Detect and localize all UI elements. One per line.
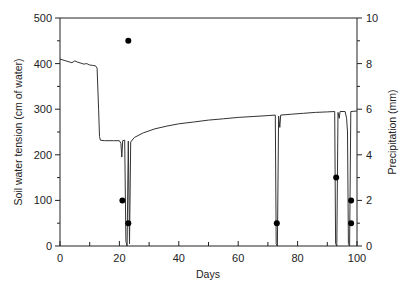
x-ticks: 020406080100 [57, 241, 366, 264]
y2-tick-label: 2 [366, 194, 372, 206]
y2-tick-label: 10 [366, 12, 378, 24]
x-axis-title: Days [196, 268, 220, 280]
y-tick-label: 100 [34, 194, 52, 206]
precipitation-point [274, 220, 280, 226]
x-tick-label: 40 [173, 252, 185, 264]
y-tick-label: 200 [34, 149, 52, 161]
precipitation-point [125, 38, 131, 44]
soil-tension-line [60, 59, 357, 246]
y-ticks: 0100200300400500 [34, 12, 60, 252]
y2-tick-label: 4 [366, 149, 372, 161]
precipitation-point [348, 197, 354, 203]
y2-ticks: 0246810 [357, 12, 378, 252]
x-tick-label: 60 [232, 252, 244, 264]
precipitation-point [333, 175, 339, 181]
plot-lines [60, 59, 357, 246]
y2-tick-label: 0 [366, 240, 372, 252]
y-tick-label: 500 [34, 12, 52, 24]
x-tick-label: 20 [113, 252, 125, 264]
chart-container: 020406080100 0100200300400500 0246810 Da… [0, 0, 404, 294]
x-tick-label: 100 [348, 252, 366, 264]
y-tick-label: 300 [34, 103, 52, 115]
y-tick-label: 400 [34, 58, 52, 70]
y-axis-title: Soil water tension (cm of water) [12, 58, 24, 205]
x-tick-label: 80 [291, 252, 303, 264]
precipitation-point [119, 197, 125, 203]
y2-tick-label: 6 [366, 103, 372, 115]
y2-tick-label: 8 [366, 58, 372, 70]
x-tick-label: 0 [57, 252, 63, 264]
precipitation-point [125, 220, 131, 226]
y2-axis-title: Precipitation (mm) [386, 89, 398, 174]
axes [60, 18, 357, 246]
precipitation-point [348, 220, 354, 226]
y-tick-label: 0 [46, 240, 52, 252]
precipitation-points [119, 38, 354, 226]
chart: 020406080100 0100200300400500 0246810 Da… [0, 0, 404, 294]
